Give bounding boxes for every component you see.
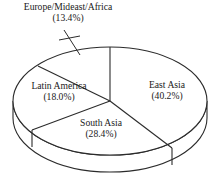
pie-chart: Europe/Mideast/Africa (13.4%) East Asia … xyxy=(0,0,221,184)
pie-chart-graphic xyxy=(0,0,221,184)
pie-3d-body xyxy=(13,30,207,172)
